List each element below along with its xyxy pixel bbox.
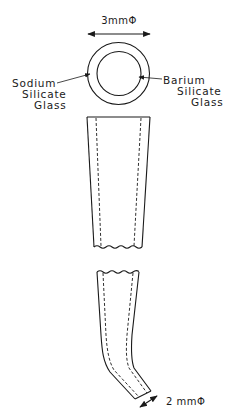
inner-layer-label-line3: Glass [191, 96, 223, 108]
leader-arrow-icon [139, 77, 162, 79]
top-diameter-dimension: 3mmΦ [88, 15, 150, 34]
break-line [97, 271, 139, 274]
double-arrow-icon [140, 396, 157, 407]
tube-diagram: 3mmΦ Sodium Silicate Glass Barium Silica… [0, 0, 234, 420]
outer-layer-label-line3: Glass [34, 99, 66, 111]
outer-layer-callout: Sodium Silicate Glass [12, 74, 90, 111]
inner-circle [97, 52, 141, 96]
bottom-diameter-dimension: 2 mmΦ [140, 396, 205, 407]
cross-section [88, 43, 150, 105]
inner-layer-callout: Barium Silicate Glass [139, 74, 223, 108]
top-diameter-label: 3mmΦ [101, 15, 137, 26]
break-line [94, 246, 142, 249]
bottom-diameter-label: 2 mmΦ [166, 396, 205, 407]
leader-arrow-icon [57, 74, 90, 83]
lower-tube-segment [97, 271, 151, 399]
upper-tube-segment [87, 117, 150, 248]
